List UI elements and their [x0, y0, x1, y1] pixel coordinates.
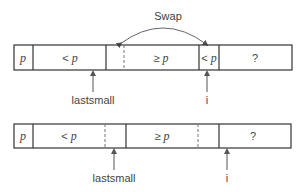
bottom-cell-pivot: p — [20, 129, 26, 144]
top-i-label: i — [206, 94, 208, 106]
bottom-cell-less: < p — [61, 129, 76, 144]
bottom-lastsmall-label: lastsmall — [93, 172, 136, 184]
top-cell-less-swap: < p — [201, 51, 216, 66]
p-symbol: p — [211, 51, 217, 65]
top-cell-unknown: ? — [252, 52, 258, 64]
swap-arc — [120, 28, 206, 44]
swap-label: Swap — [154, 10, 182, 22]
top-cell-pivot: p — [20, 51, 26, 66]
top-cell-less: < p — [62, 51, 77, 66]
top-cell-greater-equal: ≥ p — [153, 51, 168, 66]
bottom-cell-unknown: ? — [250, 130, 256, 142]
p-symbol: p — [72, 51, 78, 65]
top-lastsmall-label: lastsmall — [72, 94, 115, 106]
geq-symbol: ≥ — [154, 130, 163, 142]
bottom-i-label: i — [226, 172, 228, 184]
diagram-canvas — [0, 0, 305, 192]
geq-symbol: ≥ — [153, 52, 162, 64]
p-symbol: p — [71, 129, 77, 143]
bottom-cell-greater-equal: ≥ p — [154, 129, 169, 144]
p-symbol: p — [164, 129, 170, 143]
p-symbol: p — [163, 51, 169, 65]
